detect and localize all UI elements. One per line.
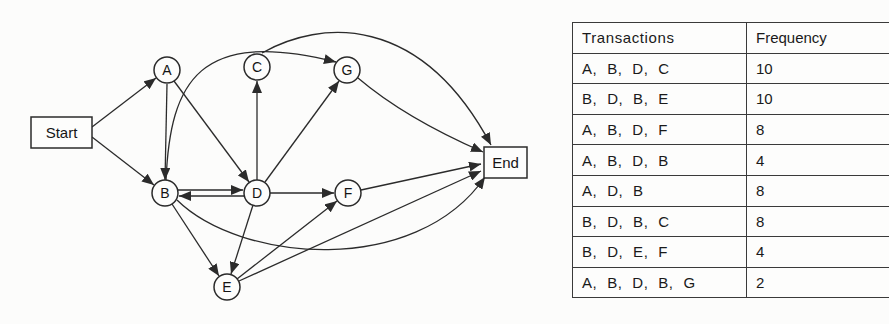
- node-A-label: A: [162, 62, 172, 78]
- node-End-label: End: [492, 154, 519, 171]
- node-C-label: C: [252, 59, 262, 75]
- frequency-cell: 10: [747, 84, 889, 115]
- node-B-label: B: [160, 185, 169, 201]
- frequency-cell: 10: [747, 53, 889, 84]
- process-model-diagram: StartACGBDFEEnd: [0, 0, 560, 324]
- node-Start: Start: [31, 117, 92, 148]
- transaction-cell: A, B, D, B, G: [573, 267, 747, 298]
- table-row: A, D, B8: [573, 175, 889, 206]
- edge-D-to-G: [265, 81, 339, 182]
- transaction-frequency-table: Transactions Frequency A, B, D, C10B, D,…: [572, 22, 889, 298]
- table-header: Transactions Frequency: [573, 23, 889, 54]
- frequency-cell: 8: [747, 114, 889, 145]
- column-header-frequency: Frequency: [747, 23, 889, 54]
- node-B: B: [152, 180, 178, 206]
- node-E-label: E: [222, 279, 231, 295]
- transaction-cell: A, B, D, C: [573, 53, 747, 84]
- node-F-label: F: [344, 185, 353, 201]
- edge-C-to-End: [262, 32, 491, 145]
- node-C: C: [244, 54, 270, 80]
- table-row: B, D, B, C8: [573, 206, 889, 237]
- node-F: F: [335, 180, 361, 206]
- node-G-label: G: [342, 62, 353, 78]
- transaction-cell: A, D, B: [573, 175, 747, 206]
- figure-canvas: StartACGBDFEEnd Transactions Frequency A…: [0, 0, 889, 324]
- table-row: A, B, D, C10: [573, 53, 889, 84]
- frequency-cell: 4: [747, 237, 889, 268]
- column-header-transactions: Transactions: [573, 23, 747, 54]
- table-row: A, B, D, B, G2: [573, 267, 889, 298]
- node-D-label: D: [252, 185, 262, 201]
- table-header-row: Transactions Frequency: [573, 23, 889, 54]
- transaction-cell: B, D, B, C: [573, 206, 747, 237]
- edge-F-to-End: [361, 164, 481, 190]
- frequency-cell: 8: [747, 206, 889, 237]
- table-row: B, D, B, E10: [573, 84, 889, 115]
- table-body: A, B, D, C10B, D, B, E10A, B, D, F8A, B,…: [573, 53, 889, 298]
- node-E: E: [214, 274, 240, 300]
- frequency-cell: 4: [747, 145, 889, 176]
- edge-G-to-End: [358, 78, 483, 152]
- node-Start-label: Start: [46, 124, 79, 141]
- frequency-cell: 2: [747, 267, 889, 298]
- transaction-cell: A, B, D, F: [573, 114, 747, 145]
- transaction-cell: B, D, B, E: [573, 84, 747, 115]
- frequency-cell: 8: [747, 175, 889, 206]
- node-End: End: [484, 147, 527, 178]
- node-A: A: [154, 57, 180, 83]
- table-row: B, D, E, F4: [573, 237, 889, 268]
- edge-Start-to-A: [92, 78, 156, 127]
- process-graph-svg: StartACGBDFEEnd: [0, 0, 560, 324]
- table-row: A, B, D, B4: [573, 145, 889, 176]
- transaction-cell: B, D, E, F: [573, 237, 747, 268]
- edge-A-to-D: [174, 81, 249, 182]
- edge-Start-to-B: [92, 137, 154, 185]
- table-row: A, B, D, F8: [573, 114, 889, 145]
- node-D: D: [244, 180, 270, 206]
- transaction-cell: A, B, D, B: [573, 145, 747, 176]
- node-G: G: [334, 57, 360, 83]
